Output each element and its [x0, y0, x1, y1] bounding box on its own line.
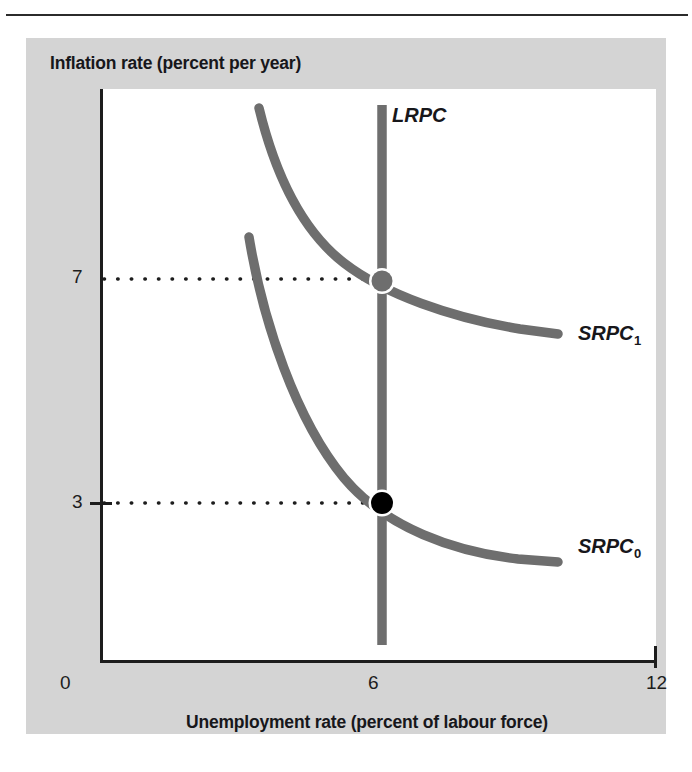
curve-label-srpc1-subscript: 1 [634, 333, 641, 348]
y-axis-line [100, 89, 103, 663]
figure-page: Inflation rate (percent per year) LRPC S… [0, 0, 692, 772]
x-axis-title: Unemployment rate (percent of labour for… [186, 712, 548, 733]
curve-label-srpc0-base: SRPC [578, 535, 634, 557]
curve-label-lrpc: LRPC [392, 104, 446, 127]
curve-label-lrpc-text: LRPC [392, 104, 446, 126]
page-header-rule [6, 14, 688, 16]
curve-label-srpc1-base: SRPC [578, 322, 634, 344]
curve-label-srpc1: SRPC1 [578, 322, 641, 348]
x-tick-label-0: 0 [60, 672, 71, 694]
x-axis-line [100, 660, 656, 663]
x-tick-label-6: 6 [368, 672, 379, 694]
y-tick-label-7: 7 [72, 266, 83, 288]
curve-label-srpc0-subscript: 0 [634, 546, 641, 561]
curve-label-srpc0: SRPC0 [578, 535, 641, 561]
y-tick-label-3: 3 [72, 491, 83, 513]
y-axis-title: Inflation rate (percent per year) [50, 53, 301, 74]
x-tick-mark-12 [654, 646, 657, 668]
y-tick-mark-3 [90, 502, 112, 505]
plot-area [102, 89, 656, 662]
x-tick-label-12: 12 [646, 672, 667, 694]
